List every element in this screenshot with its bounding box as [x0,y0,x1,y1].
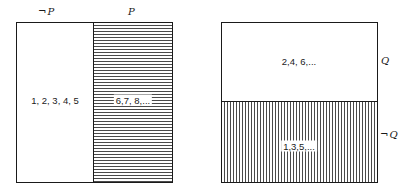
region-not-p: 1, 2, 3, 4, 5 [17,23,93,182]
set-not-p-members: 1, 2, 3, 4, 5 [31,95,79,106]
set-p-members: 6,7, 8,... [114,95,152,106]
set-not-q-members: 1,3,5,... [281,141,317,152]
label-p: P [128,6,135,17]
region-not-q-hatched: 1,3,5,... [222,101,377,182]
negation-symbol: ¬ [38,6,46,17]
negation-symbol: ¬ [380,129,388,140]
label-not-q: ¬Q [380,129,398,140]
set-q-members: 2,4, 6,... [282,56,316,67]
region-q: 2,4, 6,... [222,23,377,101]
region-p-hatched: 6,7, 8,... [93,23,172,182]
partition-box-q: 2,4, 6,... 1,3,5,... [221,22,378,183]
label-not-p: ¬P [38,6,54,17]
label-q: Q [381,55,389,66]
partition-box-p: 1, 2, 3, 4, 5 6,7, 8,... [16,22,173,183]
